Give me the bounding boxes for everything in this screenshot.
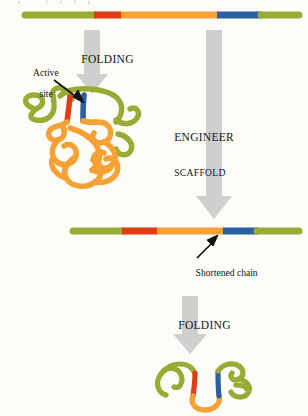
shortened-chain-label: Shortened chain — [186, 258, 258, 289]
small-protein-orange-loop — [192, 396, 219, 410]
diagram-canvas: FOLDING Active site ENGINEER SCAFFOLD Sh… — [0, 0, 308, 416]
small-protein-red-segment — [193, 373, 195, 396]
folding-label-top: FOLDING — [64, 32, 134, 84]
small-protein-green-right-3 — [236, 385, 247, 389]
engineer-scaffold-label: ENGINEER SCAFFOLD — [157, 110, 234, 196]
folding-label-bottom: FOLDING — [161, 298, 231, 350]
active-site-label: Active site — [24, 58, 59, 110]
small-protein-blue-active-site — [218, 372, 219, 396]
